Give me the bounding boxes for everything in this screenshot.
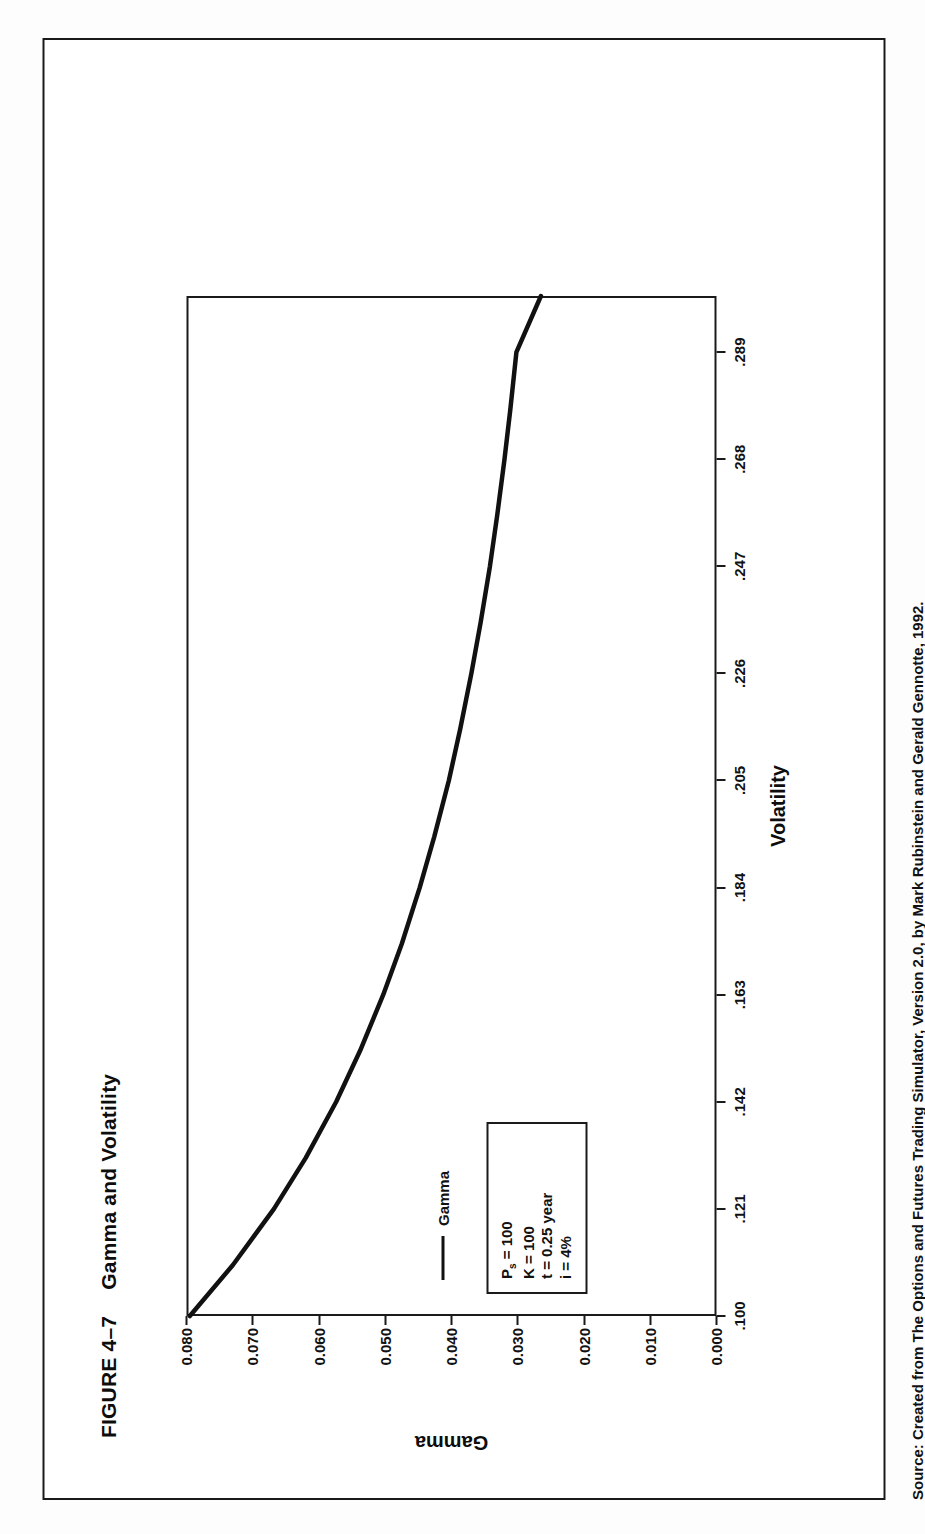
x-axis-tick-label: .247 <box>730 552 747 581</box>
y-axis-title: Gamma <box>414 1431 487 1454</box>
x-axis-tick-label: .163 <box>730 980 747 1009</box>
parameter-line: t = 0.25 year <box>537 1137 556 1279</box>
y-axis-tick-label: 0.070 <box>244 1328 261 1366</box>
y-axis-tick <box>384 1316 386 1325</box>
x-axis-tick-label: .226 <box>730 659 747 688</box>
y-axis-tick <box>450 1316 452 1325</box>
parameter-line: K = 100 <box>519 1137 538 1279</box>
y-axis-tick-label: 0.000 <box>708 1328 725 1366</box>
legend-key: Gamma <box>434 1171 451 1280</box>
figure-title: FIGURE 4–7Gamma and Volatility <box>96 1074 120 1438</box>
y-axis-tick <box>185 1316 187 1325</box>
y-axis-tick <box>583 1316 585 1325</box>
x-axis-tick <box>716 458 725 460</box>
y-axis-tick-label: 0.060 <box>310 1328 327 1366</box>
figure-number: FIGURE 4–7 <box>96 1316 119 1438</box>
figure-title-text: Gamma and Volatility <box>96 1074 119 1290</box>
source-caption: Source: Created from The Options and Fut… <box>908 601 925 1500</box>
parameter-line: i = 4% <box>556 1137 575 1279</box>
figure-page: FIGURE 4–7Gamma and Volatility Gamma Gam… <box>0 0 925 1534</box>
x-axis-tick <box>716 780 725 782</box>
x-axis-tick <box>716 351 725 353</box>
legend: Gamma Ps = 100K = 100t = 0.25 yeari = 4% <box>486 1098 587 1294</box>
x-axis-tick <box>716 565 725 567</box>
x-axis-tick <box>716 1208 725 1210</box>
y-axis-tick <box>516 1316 518 1325</box>
gamma-curve <box>186 296 716 1316</box>
x-axis-tick-label: .289 <box>730 338 747 367</box>
parameter-box: Ps = 100K = 100t = 0.25 yeari = 4% <box>486 1122 587 1294</box>
x-axis-tick <box>716 994 725 996</box>
x-axis-tick <box>716 1315 725 1317</box>
y-axis-tick <box>715 1316 717 1325</box>
x-axis-tick-label: .205 <box>730 766 747 795</box>
y-axis-tick-label: 0.040 <box>443 1328 460 1366</box>
x-axis-tick-label: .100 <box>730 1301 747 1330</box>
legend-line-swatch <box>441 1236 444 1280</box>
parameter-line: Ps = 100 <box>497 1137 519 1279</box>
x-axis-tick-label: .121 <box>730 1194 747 1223</box>
x-axis-tick-label: .268 <box>730 445 747 474</box>
x-axis-tick <box>716 1101 725 1103</box>
x-axis-tick-label: .142 <box>730 1087 747 1116</box>
y-axis-tick-label: 0.030 <box>509 1328 526 1366</box>
y-axis-tick <box>251 1316 253 1325</box>
y-axis-tick <box>649 1316 651 1325</box>
x-axis-tick <box>716 887 725 889</box>
x-axis-title: Volatility <box>766 296 789 1316</box>
y-axis-tick-label: 0.020 <box>575 1328 592 1366</box>
y-axis-tick-label: 0.080 <box>178 1328 195 1366</box>
x-axis-tick-label: .184 <box>730 873 747 902</box>
x-axis-tick <box>716 672 725 674</box>
legend-series-label: Gamma <box>434 1171 451 1226</box>
y-axis-tick <box>318 1316 320 1325</box>
chart-plot-area: Gamma Ps = 100K = 100t = 0.25 yeari = 4%… <box>186 296 716 1316</box>
rotated-page-wrapper: FIGURE 4–7Gamma and Volatility Gamma Gam… <box>0 0 925 1534</box>
y-axis-tick-label: 0.010 <box>641 1328 658 1366</box>
y-axis-tick-label: 0.050 <box>376 1328 393 1366</box>
